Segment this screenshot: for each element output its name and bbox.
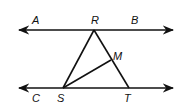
label-s: S: [57, 92, 65, 104]
label-t: T: [124, 92, 132, 104]
label-a: A: [31, 14, 39, 26]
label-m: M: [113, 50, 123, 62]
label-r: R: [91, 14, 99, 26]
label-c: C: [32, 92, 40, 104]
segment-rt: [94, 30, 129, 88]
geometry-diagram: A R B M C S T: [0, 0, 184, 111]
label-b: B: [131, 14, 138, 26]
